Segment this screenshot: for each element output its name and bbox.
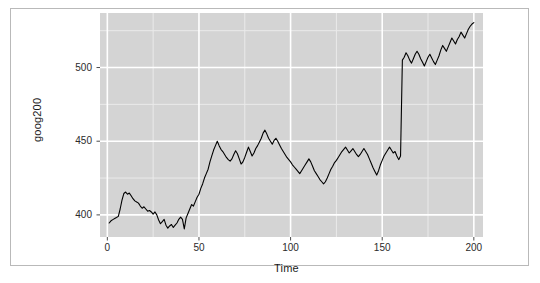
x-tick-label: 100 — [274, 242, 308, 253]
x-tick-label: 0 — [90, 242, 124, 253]
x-axis-title: Time — [110, 262, 463, 274]
y-tick-label: 400 — [60, 209, 92, 220]
y-tick-label: 500 — [60, 62, 92, 73]
x-tick-label: 50 — [182, 242, 216, 253]
y-tick-label: 450 — [60, 135, 92, 146]
panel-background — [100, 13, 483, 237]
x-tick-label: 150 — [365, 242, 399, 253]
x-tick-label: 200 — [457, 242, 491, 253]
